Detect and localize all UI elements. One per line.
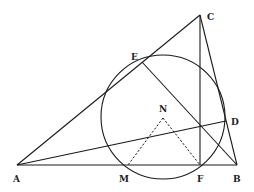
label-e: E	[131, 52, 138, 62]
segment-cb	[200, 15, 237, 165]
label-f: F	[197, 174, 204, 184]
diagram-labels: C E N D A M F B	[12, 12, 241, 184]
circle	[101, 55, 225, 179]
label-n: N	[159, 104, 167, 114]
label-m: M	[119, 174, 129, 184]
segment-nf	[163, 118, 200, 165]
label-b: B	[233, 174, 241, 184]
label-a: A	[12, 174, 21, 184]
diagram-shapes	[17, 15, 237, 179]
label-c: C	[207, 12, 214, 22]
segment-nm	[128, 118, 163, 165]
segment-ac	[17, 15, 200, 165]
segment-ad	[17, 121, 226, 165]
segment-eb	[142, 62, 237, 165]
geometry-diagram: C E N D A M F B	[0, 0, 254, 192]
label-d: D	[231, 117, 239, 127]
